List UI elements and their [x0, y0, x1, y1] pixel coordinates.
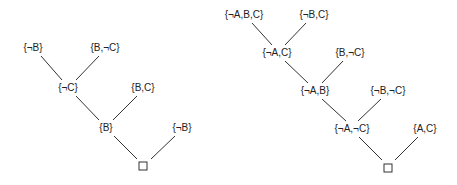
diagram-canvas: {¬B}{B,¬C}{¬C}{B,C}{B}{¬B} {¬A,B,C}{¬B,C…	[0, 0, 457, 185]
clause-label: {¬A,¬C}	[334, 123, 370, 134]
resolution-edge	[358, 99, 381, 121]
resolution-edge	[285, 23, 306, 45]
clause-label: {¬A,B}	[301, 85, 330, 96]
empty-clause-box-icon	[384, 164, 392, 172]
resolution-edge	[151, 136, 175, 159]
clause-label: {B,C}	[131, 82, 155, 93]
clause-label: {¬A,B,C}	[225, 9, 264, 20]
clause-label: {¬B}	[172, 122, 192, 133]
right-resolution-tree: {¬A,B,C}{¬B,C}{¬A,C}{B,¬C}{¬A,B}{¬B,¬C}{…	[225, 9, 438, 172]
resolution-edge	[76, 96, 99, 120]
clause-label: {¬B,¬C}	[370, 85, 406, 96]
resolution-edge	[114, 136, 137, 159]
empty-clause-box-icon	[139, 162, 147, 170]
resolution-edge	[322, 99, 346, 121]
clause-label: {B,¬C}	[90, 42, 120, 53]
clause-label: {¬A,C}	[262, 47, 292, 58]
resolution-edge	[359, 137, 382, 160]
clause-label: {B}	[99, 122, 113, 133]
resolution-edge	[41, 56, 62, 80]
resolution-edge	[285, 61, 308, 83]
resolution-edge	[395, 137, 418, 160]
resolution-edge	[113, 96, 137, 120]
clause-label: {¬C}	[58, 82, 78, 93]
resolution-edge	[252, 23, 272, 45]
clause-label: {¬B}	[23, 42, 43, 53]
clause-label: {¬B,C}	[299, 9, 329, 20]
resolution-diagram: {¬B}{B,¬C}{¬C}{B,C}{B}{¬B} {¬A,B,C}{¬B,C…	[0, 0, 457, 185]
clause-label: {A,C}	[413, 123, 437, 134]
clause-label: {B,¬C}	[335, 47, 365, 58]
left-resolution-tree: {¬B}{B,¬C}{¬C}{B,C}{B}{¬B}	[23, 42, 192, 170]
resolution-edge	[76, 56, 99, 80]
resolution-edge	[322, 61, 343, 83]
